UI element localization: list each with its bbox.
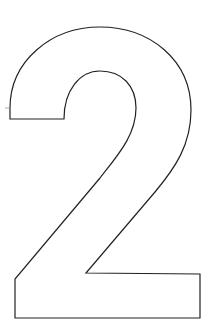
- numeral-two-path: [10, 27, 200, 318]
- numeral-two-outline: [0, 0, 212, 331]
